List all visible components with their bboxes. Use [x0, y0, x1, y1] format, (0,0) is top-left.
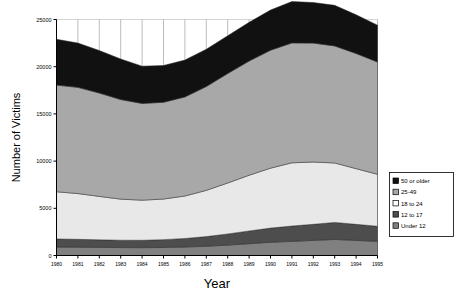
stacked-area-chart: 0500010000150002000025000198019811982198… [0, 0, 457, 297]
legend-label[interactable]: 12 to 17 [401, 212, 423, 218]
y-tick-label: 15000 [36, 111, 51, 117]
x-tick-label: 1986 [179, 261, 190, 267]
legend-swatch[interactable] [393, 223, 399, 229]
chart-container: 0500010000150002000025000198019811982198… [0, 0, 457, 297]
x-tick-label: 1988 [222, 261, 233, 267]
y-tick-label: 25000 [36, 17, 51, 23]
legend-swatch[interactable] [393, 212, 399, 218]
y-axis-title: Number of Victims [10, 92, 22, 182]
legend-swatch[interactable] [393, 189, 399, 195]
x-tick-label: 1989 [244, 261, 255, 267]
x-tick-label: 1981 [72, 261, 83, 267]
legend-label[interactable]: 25-49 [401, 189, 417, 195]
legend-label[interactable]: 50 or older [401, 178, 430, 184]
x-tick-label: 1980 [51, 261, 62, 267]
x-axis-title: Year [204, 276, 231, 291]
x-tick-label: 1982 [94, 261, 105, 267]
legend-label[interactable]: 18 to 24 [401, 201, 423, 207]
y-tick-label: 20000 [36, 64, 51, 70]
y-tick-label: 5000 [39, 205, 51, 211]
x-tick-label: 1987 [201, 261, 212, 267]
legend-swatch[interactable] [393, 200, 399, 206]
x-tick-label: 1984 [137, 261, 148, 267]
legend-swatch[interactable] [393, 178, 399, 184]
x-tick-label: 1990 [265, 261, 276, 267]
x-tick-label: 1992 [308, 261, 319, 267]
legend: 50 or older25-4918 to 2412 to 17Under 12 [390, 173, 454, 237]
y-tick-label: 0 [48, 253, 51, 259]
x-tick-label: 1995 [372, 261, 383, 267]
x-tick-label: 1985 [158, 261, 169, 267]
x-tick-label: 1991 [286, 261, 297, 267]
x-tick-label: 1983 [115, 261, 126, 267]
x-tick-label: 1994 [351, 261, 362, 267]
y-tick-label: 10000 [36, 158, 51, 164]
legend-label[interactable]: Under 12 [401, 223, 426, 229]
x-tick-label: 1993 [329, 261, 340, 267]
